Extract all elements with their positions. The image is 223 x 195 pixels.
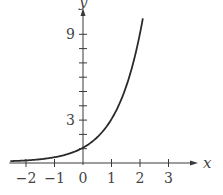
x-axis-tick-labels: −2−10123 bbox=[16, 170, 173, 186]
x-tick-label: 1 bbox=[107, 170, 116, 186]
y-axis-label: y bbox=[78, 0, 88, 11]
x-axis-label: x bbox=[203, 154, 212, 172]
y-axis: 39 y bbox=[66, 0, 88, 165]
x-tick-label: 3 bbox=[164, 170, 173, 186]
x-tick-label: −1 bbox=[44, 170, 65, 186]
exponential-chart: −2−10123 x 39 y bbox=[0, 0, 223, 195]
x-tick-label: 2 bbox=[136, 170, 145, 186]
x-tick-label: −2 bbox=[16, 170, 37, 186]
y-tick-label: 3 bbox=[66, 112, 75, 128]
exponential-curve bbox=[10, 18, 143, 161]
y-axis-tick-labels: 39 bbox=[66, 26, 75, 128]
x-axis-arrow-icon bbox=[190, 161, 198, 166]
x-tick-label: 0 bbox=[79, 170, 88, 186]
y-tick-label: 9 bbox=[66, 26, 75, 42]
